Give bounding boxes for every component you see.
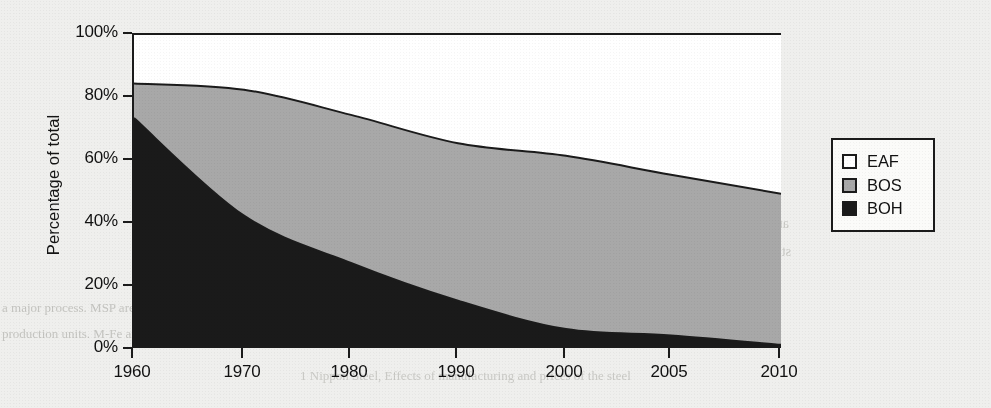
y-tick-mark: [123, 158, 132, 160]
plot-area: [132, 33, 781, 348]
x-tick-label-2010: 2010: [739, 362, 819, 382]
x-tick-mark: [563, 348, 565, 358]
x-tick-label-1960: 1960: [92, 362, 172, 382]
y-tick-label-40pct: 40%: [54, 211, 118, 231]
legend-swatch-boh: [842, 201, 857, 216]
y-tick-mark: [123, 95, 132, 97]
y-tick-mark: [123, 32, 132, 34]
y-tick-mark: [123, 284, 132, 286]
legend-label-bos: BOS: [867, 177, 902, 194]
chart-legend[interactable]: EAFBOSBOH: [831, 138, 935, 232]
y-tick-mark: [123, 221, 132, 223]
legend-item-bos[interactable]: BOS: [842, 177, 933, 194]
y-tick-label-100pct: 100%: [54, 22, 118, 42]
y-tick-label-60pct: 60%: [54, 148, 118, 168]
x-tick-mark: [241, 348, 243, 358]
x-tick-mark: [778, 348, 780, 358]
y-tick-label-20pct: 20%: [54, 274, 118, 294]
area-series-group: [134, 33, 781, 348]
legend-label-eaf: EAF: [867, 153, 899, 170]
x-tick-label-1970: 1970: [202, 362, 282, 382]
x-tick-label-1990: 1990: [416, 362, 496, 382]
legend-swatch-bos: [842, 178, 857, 193]
x-tick-label-2005: 2005: [629, 362, 709, 382]
legend-item-eaf[interactable]: EAF: [842, 153, 933, 170]
stacked-area-chart: Percentage of total 0%20%40%60%80%100% 1…: [0, 0, 991, 408]
x-tick-mark: [455, 348, 457, 358]
x-tick-label-2000: 2000: [524, 362, 604, 382]
x-tick-mark: [668, 348, 670, 358]
y-tick-label-0pct: 0%: [54, 337, 118, 357]
legend-label-boh: BOH: [867, 200, 902, 217]
y-tick-label-80pct: 80%: [54, 85, 118, 105]
legend-item-boh[interactable]: BOH: [842, 200, 933, 217]
x-tick-label-1980: 1980: [309, 362, 389, 382]
x-tick-mark: [131, 348, 133, 358]
x-tick-mark: [348, 348, 350, 358]
legend-swatch-eaf: [842, 154, 857, 169]
